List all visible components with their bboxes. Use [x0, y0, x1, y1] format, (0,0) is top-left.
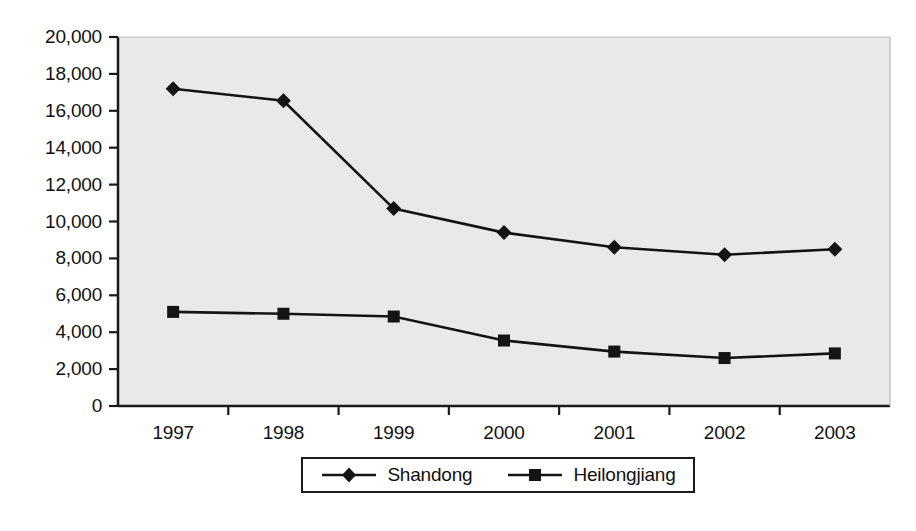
square-marker-icon	[167, 306, 179, 318]
legend-label-shandong: Shandong	[387, 464, 472, 486]
square-marker-icon	[719, 352, 731, 364]
plot-canvas	[0, 0, 916, 531]
x-tick-label: 1998	[263, 422, 304, 444]
x-tick-label: 2003	[814, 422, 855, 444]
y-tick-label: 10,000	[0, 211, 102, 233]
square-marker-icon	[388, 311, 400, 323]
y-tick-label: 8,000	[0, 247, 102, 269]
diamond-marker-icon	[320, 465, 378, 485]
y-tick-label: 16,000	[0, 100, 102, 122]
y-tick-label: 18,000	[0, 63, 102, 85]
line-chart: 02,0004,0006,0008,00010,00012,00014,0001…	[0, 0, 916, 531]
square-marker-icon	[498, 335, 510, 347]
y-tick-label: 6,000	[0, 284, 102, 306]
square-marker-icon	[506, 465, 564, 485]
y-tick-label: 0	[0, 395, 102, 417]
y-tick-label: 20,000	[0, 26, 102, 48]
legend-label-heilongjiang: Heilongjiang	[573, 464, 675, 486]
y-tick-label: 2,000	[0, 358, 102, 380]
y-tick-marks	[109, 37, 118, 406]
x-tick-label: 1997	[152, 422, 193, 444]
x-tick-label: 2001	[594, 422, 635, 444]
legend-entry-heilongjiang: Heilongjiang	[506, 464, 675, 486]
x-tick-label: 1999	[373, 422, 414, 444]
y-tick-label: 14,000	[0, 137, 102, 159]
square-marker-icon	[277, 308, 289, 320]
legend-entry-shandong: Shandong	[320, 464, 472, 486]
x-tick-label: 2000	[483, 422, 524, 444]
x-tick-label: 2002	[704, 422, 745, 444]
y-tick-label: 4,000	[0, 321, 102, 343]
chart-legend: Shandong Heilongjiang	[301, 457, 695, 493]
y-tick-label: 12,000	[0, 174, 102, 196]
square-marker-icon	[829, 347, 841, 359]
x-tick-marks	[228, 406, 779, 415]
plot-background	[118, 37, 890, 406]
square-marker-icon	[608, 346, 620, 358]
